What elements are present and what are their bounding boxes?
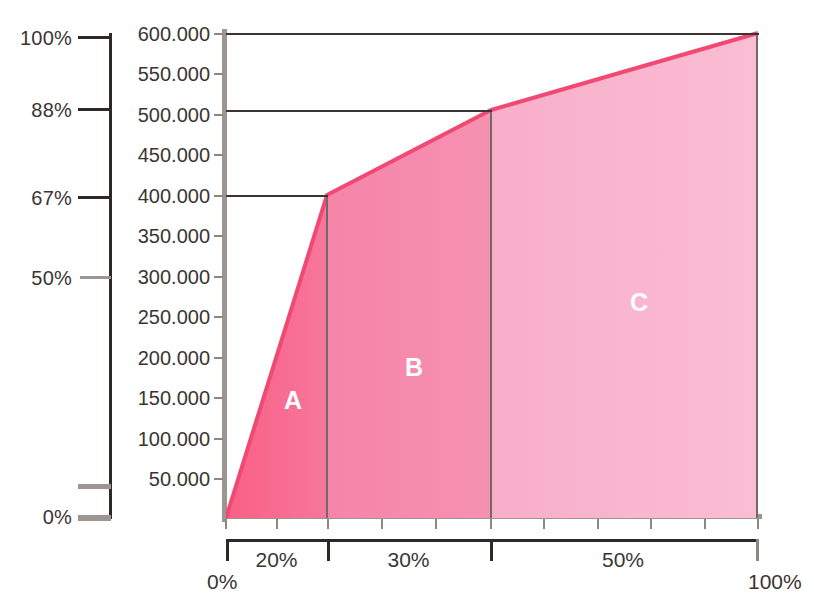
x-tick-3 bbox=[381, 519, 383, 529]
value-tick-300000 bbox=[214, 276, 223, 278]
value-tick-150000 bbox=[214, 397, 223, 399]
value-label-450000: 450.000 bbox=[125, 144, 210, 167]
value-tick-50000 bbox=[214, 478, 223, 480]
x-tick-1 bbox=[276, 519, 278, 529]
percent-label-88: 88% bbox=[0, 99, 72, 122]
x-tick-9 bbox=[704, 519, 706, 529]
cumulative-area-chart bbox=[226, 28, 762, 523]
x-tick-0 bbox=[225, 519, 227, 529]
reference-line-600000 bbox=[226, 33, 759, 35]
x-tick-10 bbox=[757, 519, 759, 529]
value-label-300000: 300.000 bbox=[125, 266, 210, 289]
x-tick-4 bbox=[435, 519, 437, 529]
value-tick-550000 bbox=[214, 73, 223, 75]
bracket-span-label-50: 50% bbox=[490, 548, 756, 572]
bracket-span-label-20: 20% bbox=[226, 548, 327, 572]
x-tick-5 bbox=[490, 519, 492, 529]
value-label-550000: 550.000 bbox=[125, 63, 210, 86]
value-tick-600000 bbox=[214, 33, 223, 35]
value-label-150000: 150.000 bbox=[125, 387, 210, 410]
value-label-250000: 250.000 bbox=[125, 306, 210, 329]
percent-tick-0 bbox=[78, 515, 111, 521]
bracket-end-label: 100% bbox=[748, 570, 802, 594]
percent-tick-50 bbox=[80, 276, 111, 279]
percent-label-67: 67% bbox=[0, 187, 72, 210]
x-tick-8 bbox=[650, 519, 652, 529]
value-label-500000: 500.000 bbox=[125, 104, 210, 127]
segment-area-c bbox=[491, 33, 758, 518]
reference-line-400000 bbox=[226, 195, 328, 197]
value-tick-400000 bbox=[214, 195, 223, 197]
chart-canvas: 100% 88% 67% 50% 0% 600.000 550.000 500.… bbox=[0, 0, 814, 598]
value-tick-350000 bbox=[214, 235, 223, 237]
percent-tick-88 bbox=[78, 108, 111, 111]
value-tick-450000 bbox=[214, 154, 223, 156]
value-tick-500000 bbox=[214, 114, 223, 116]
x-tick-2 bbox=[327, 519, 329, 529]
x-tick-6 bbox=[543, 519, 545, 529]
segment-area-b bbox=[327, 110, 491, 518]
bracket-tick-100 bbox=[756, 539, 759, 561]
value-label-50000: 50.000 bbox=[125, 468, 210, 491]
value-tick-200000 bbox=[214, 357, 223, 359]
value-label-100000: 100.000 bbox=[125, 428, 210, 451]
percent-tick-67 bbox=[78, 196, 111, 199]
percent-label-100: 100% bbox=[0, 27, 72, 50]
reference-line-505000 bbox=[226, 110, 492, 112]
bracket-start-label: 0% bbox=[207, 570, 237, 594]
value-tick-100000 bbox=[214, 438, 223, 440]
segment-label-b: B bbox=[405, 353, 424, 382]
value-label-600000: 600.000 bbox=[125, 23, 210, 46]
percent-tick-100 bbox=[78, 36, 111, 39]
percent-label-50: 50% bbox=[0, 267, 72, 290]
value-tick-250000 bbox=[214, 316, 223, 318]
segment-label-a: A bbox=[284, 386, 303, 415]
percent-tick-minor bbox=[78, 484, 111, 489]
value-label-350000: 350.000 bbox=[125, 225, 210, 248]
segment-label-c: C bbox=[630, 288, 649, 317]
value-label-200000: 200.000 bbox=[125, 347, 210, 370]
value-label-400000: 400.000 bbox=[125, 185, 210, 208]
x-tick-7 bbox=[597, 519, 599, 529]
percent-label-0: 0% bbox=[0, 506, 72, 529]
bracket-span-label-30: 30% bbox=[327, 548, 490, 572]
